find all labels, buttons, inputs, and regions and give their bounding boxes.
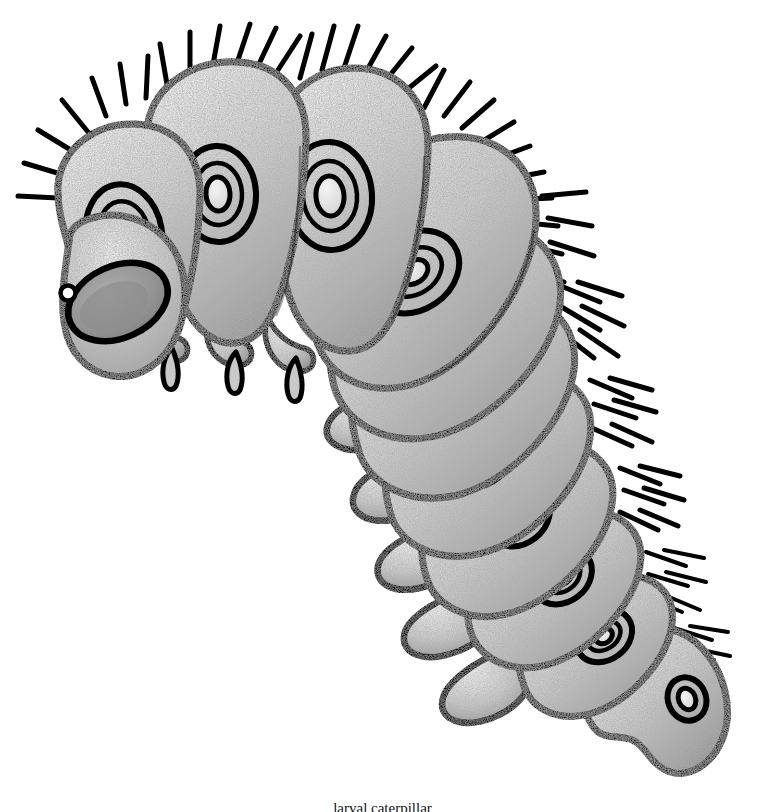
head [56, 215, 185, 377]
spiracle [315, 175, 346, 217]
pupil-icon [61, 286, 76, 301]
figure-canvas: .ol { stroke:#000; stroke-linejoin:round… [0, 0, 765, 812]
spiracle [205, 176, 231, 211]
figure-caption: larval caterpillar [0, 801, 765, 812]
caption-strip: larval caterpillar [0, 800, 765, 812]
caterpillar-illustration: .ol { stroke:#000; stroke-linejoin:round… [0, 0, 765, 812]
